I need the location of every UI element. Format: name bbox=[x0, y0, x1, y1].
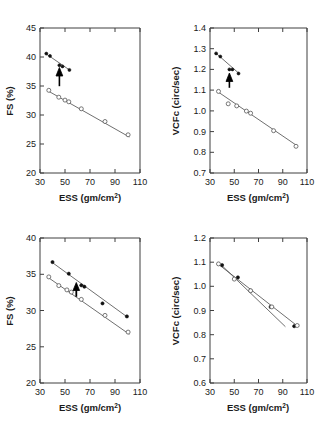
y-tick-label: 25 bbox=[26, 342, 36, 352]
y-tick-labels-tr: 0.7 0.8 0.9 1.0 1.1 1.2 1.3 1.4 bbox=[193, 23, 206, 178]
x-tick-label: 30 bbox=[205, 387, 215, 397]
panel-bottom-right: 0.6 0.7 0.8 0.9 1.0 1.1 1.2 bbox=[165, 216, 329, 431]
y-tick-label: 1.1 bbox=[193, 257, 206, 267]
axes-frame-tr bbox=[210, 28, 307, 173]
y-ticks-tl bbox=[40, 28, 44, 173]
x-tick-label: 110 bbox=[133, 177, 147, 187]
axes-frame-bl bbox=[40, 238, 140, 383]
x-tick-labels-bl: 30 50 70 90 110 bbox=[35, 387, 147, 397]
x-tick-label: 70 bbox=[85, 387, 95, 397]
y-tick-labels-br: 0.6 0.7 0.8 0.9 1.0 1.1 1.2 bbox=[193, 233, 206, 388]
y-tick-label: 1.0 bbox=[193, 281, 206, 291]
y-tick-label: 1.2 bbox=[193, 64, 206, 74]
x-tick-labels-br: 30 50 70 90 110 bbox=[205, 387, 314, 397]
fit-lines-bl bbox=[48, 262, 130, 335]
y-tick-label: 0.9 bbox=[193, 306, 206, 316]
x-tick-label: 110 bbox=[300, 177, 314, 187]
x-tick-labels-tr: 30 50 70 90 110 bbox=[205, 177, 314, 187]
x-tick-label: 30 bbox=[35, 177, 45, 187]
x-tick-label: 70 bbox=[253, 387, 263, 397]
panel-top-left: 20 25 30 35 40 45 30 bbox=[0, 0, 164, 215]
x-axis-title-br: ESS (gm/cm2) bbox=[227, 402, 289, 413]
y-tick-label: 0.9 bbox=[193, 127, 206, 137]
y-tick-label: 1.1 bbox=[193, 85, 206, 95]
x-axis-title-tl: ESS (gm/cm2) bbox=[59, 192, 121, 203]
x-axis-title-bl: ESS (gm/cm2) bbox=[59, 402, 121, 413]
y-tick-label: 0.8 bbox=[193, 147, 206, 157]
x-tick-label: 90 bbox=[110, 177, 120, 187]
x-ticks-bl bbox=[40, 238, 140, 383]
x-tick-label: 90 bbox=[278, 387, 288, 397]
x-tick-labels-tl: 30 50 70 90 110 bbox=[35, 177, 147, 187]
x-ticks-tl bbox=[40, 28, 140, 173]
y-tick-labels-tl: 20 25 30 35 40 45 bbox=[26, 23, 36, 178]
y-tick-label: 1.2 bbox=[193, 233, 206, 243]
fit-lines-br bbox=[217, 263, 298, 326]
series-open-bl bbox=[47, 275, 130, 334]
y-tick-label: 0.7 bbox=[193, 354, 206, 364]
x-tick-label: 110 bbox=[300, 387, 314, 397]
y-tick-label: 30 bbox=[26, 110, 36, 120]
y-tick-label: 1.4 bbox=[193, 23, 206, 33]
axes-frame-tl bbox=[40, 28, 140, 173]
y-tick-labels-bl: 20 25 30 35 40 bbox=[26, 233, 36, 388]
x-tick-label: 50 bbox=[60, 387, 70, 397]
x-tick-label: 110 bbox=[133, 387, 147, 397]
x-tick-label: 30 bbox=[35, 387, 45, 397]
x-tick-label: 50 bbox=[60, 177, 70, 187]
y-tick-label: 30 bbox=[26, 306, 36, 316]
x-tick-label: 70 bbox=[85, 177, 95, 187]
y-ticks-br bbox=[210, 238, 214, 383]
y-ticks-tr bbox=[210, 28, 214, 173]
x-tick-label: 90 bbox=[110, 387, 120, 397]
x-ticks-tr bbox=[210, 28, 307, 173]
y-ticks-bl bbox=[40, 238, 44, 383]
annotation-arrow-up-tr bbox=[226, 73, 233, 88]
x-tick-label: 30 bbox=[205, 177, 215, 187]
annotation-arrow-up-bl bbox=[73, 283, 80, 297]
y-tick-label: 40 bbox=[26, 52, 36, 62]
y-tick-label: 35 bbox=[26, 269, 36, 279]
x-tick-label: 90 bbox=[278, 177, 288, 187]
figure-multi-panel-scatter: 20 25 30 35 40 45 30 bbox=[0, 0, 329, 431]
x-ticks-br bbox=[210, 238, 307, 383]
x-tick-label: 70 bbox=[253, 177, 263, 187]
x-tick-label: 50 bbox=[229, 177, 239, 187]
panel-bottom-left: 20 25 30 35 40 30 50 70 bbox=[0, 216, 164, 431]
y-tick-label: 35 bbox=[26, 81, 36, 91]
fit-lines-tr bbox=[216, 53, 297, 146]
y-tick-label: 45 bbox=[26, 23, 36, 33]
annotation-arrow-up-tl bbox=[56, 68, 63, 87]
axes-frame-br bbox=[210, 238, 307, 383]
x-axis-title-tr: ESS (gm/cm2) bbox=[227, 192, 289, 203]
series-open-tl bbox=[47, 88, 130, 137]
y-axis-title-bl: FS (%) bbox=[4, 296, 15, 326]
y-axis-title-tl: FS (%) bbox=[4, 86, 15, 116]
y-axis-title-tr: VCFc (circ/sec) bbox=[170, 67, 181, 136]
y-tick-label: 25 bbox=[26, 139, 36, 149]
y-tick-label: 40 bbox=[26, 233, 36, 243]
x-tick-label: 50 bbox=[229, 387, 239, 397]
y-tick-label: 0.8 bbox=[193, 330, 206, 340]
y-axis-title-br: VCFc (circ/sec) bbox=[170, 277, 181, 346]
y-tick-label: 1.3 bbox=[193, 44, 206, 54]
panel-top-right: 0.7 0.8 0.9 1.0 1.1 1.2 1.3 1.4 bbox=[165, 0, 329, 215]
y-tick-label: 1.0 bbox=[193, 106, 206, 116]
